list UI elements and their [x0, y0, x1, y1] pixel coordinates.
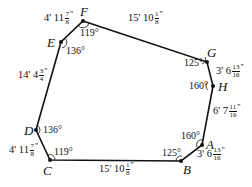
edge-length-ef: 4' 11 78 "	[44, 11, 73, 26]
angle-label-a: 160°	[181, 131, 200, 141]
edge-length-gh: 3' 6 1316 "	[216, 64, 244, 79]
angle-label-c: 119°	[54, 147, 73, 157]
vertex-label-c: C	[43, 164, 52, 177]
edge-length-cd: 4' 11 78 "	[9, 143, 38, 158]
vertex-label-f: F	[80, 5, 88, 18]
vertex-label-h: H	[218, 80, 227, 93]
angle-label-e: 136°	[66, 46, 85, 56]
vertex-label-d: D	[24, 124, 33, 137]
angle-label-d: 136°	[43, 125, 62, 135]
edge-length-bc: 15' 10 18 "	[99, 162, 134, 177]
vertex-dots	[34, 19, 215, 163]
angle-label-g: 125°	[184, 58, 203, 68]
angle-label-h: 160°	[189, 81, 208, 91]
edge-length-fg: 15' 10 18 "	[128, 11, 163, 26]
edge-length-ha: 6' 7 1116 "	[213, 104, 241, 119]
edge-length-ab: 3' 6 1316 "	[197, 147, 225, 162]
edge-length-de: 14' 4 34 "	[18, 68, 48, 83]
angle-label-b: 125°	[162, 148, 181, 158]
vertex-label-g: G	[207, 46, 216, 59]
vertex-label-b: B	[183, 163, 191, 176]
vertex-label-e: E	[47, 36, 55, 49]
angle-label-f: 119°	[80, 28, 99, 38]
